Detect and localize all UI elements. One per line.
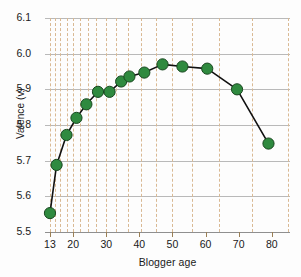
x-tick-mark-30	[106, 232, 107, 237]
x-tick-mark-80	[272, 232, 273, 237]
y-tick-5.5: 5.5	[0, 225, 31, 237]
data-point	[44, 208, 55, 219]
x-tick-40: 40	[122, 238, 156, 250]
x-tick-60: 60	[189, 238, 223, 250]
y-axis-title: Valence (v)	[15, 64, 26, 164]
data-point	[104, 86, 115, 97]
x-tick-mark-50	[172, 232, 173, 237]
y-tick-5.6: 5.6	[0, 189, 31, 201]
data-point	[157, 59, 168, 70]
series-markers	[44, 59, 274, 219]
data-point	[139, 67, 150, 78]
y-tick-6.0: 6.0	[0, 47, 31, 59]
y-tick-5.8: 5.8	[0, 118, 31, 130]
data-point	[71, 112, 82, 123]
y-tick-6.1: 6.1	[0, 11, 31, 23]
data-series	[45, 18, 290, 232]
data-point	[124, 71, 135, 82]
data-point	[81, 99, 92, 110]
data-point	[51, 159, 62, 170]
data-point	[92, 86, 103, 97]
data-point	[263, 138, 274, 149]
x-tick-mark-40	[139, 232, 140, 237]
x-tick-mark-70	[239, 232, 240, 237]
x-tick-50: 50	[155, 238, 189, 250]
x-tick-30: 30	[89, 238, 123, 250]
data-point	[61, 129, 72, 140]
data-point	[202, 63, 213, 74]
x-tick-20: 20	[56, 238, 90, 250]
plot-area: 5.55.65.75.85.96.06.1 1320304050607080	[45, 18, 290, 232]
gridline-y-5.5	[45, 232, 290, 233]
x-tick-70: 70	[222, 238, 256, 250]
x-tick-80: 80	[255, 238, 289, 250]
x-tick-mark-60	[206, 232, 207, 237]
y-tick-5.7: 5.7	[0, 154, 31, 166]
chart-figure: Valence (v) 5.55.65.75.85.96.06.1 132030…	[0, 0, 301, 277]
data-point	[231, 84, 242, 95]
y-tick-5.9: 5.9	[0, 82, 31, 94]
x-axis-title: Blogger age	[45, 256, 290, 268]
x-tick-mark-20	[73, 232, 74, 237]
x-tick-mark-13	[50, 232, 51, 237]
data-point	[177, 61, 188, 72]
